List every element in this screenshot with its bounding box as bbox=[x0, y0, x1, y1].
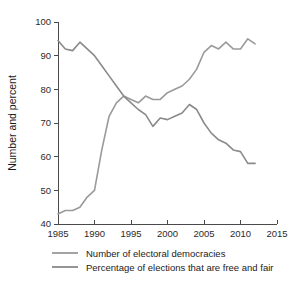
chart-series bbox=[58, 39, 255, 214]
axis-ticks bbox=[54, 22, 277, 224]
chart-figure: 405060708090100 198519901995200020052010… bbox=[0, 0, 293, 284]
x-tick-label: 2000 bbox=[157, 228, 178, 239]
x-tick-label: 1985 bbox=[47, 228, 68, 239]
x-tick-label: 1990 bbox=[84, 228, 105, 239]
series-line-democracies bbox=[58, 39, 255, 214]
y-axis-title: Number and percent bbox=[6, 75, 18, 171]
x-tick-label: 2015 bbox=[266, 228, 287, 239]
y-tick-label: 80 bbox=[40, 84, 51, 95]
y-axis-title-text: Number and percent bbox=[6, 75, 18, 171]
y-tick-label: 100 bbox=[35, 16, 51, 27]
y-tick-label: 60 bbox=[40, 151, 51, 162]
y-tick-label: 70 bbox=[40, 117, 51, 128]
legend-label-1: Percentage of elections that are free an… bbox=[86, 262, 273, 273]
line-chart: 405060708090100 198519901995200020052010… bbox=[0, 0, 293, 284]
legend-label-0: Number of electoral democracies bbox=[86, 248, 226, 259]
x-tick-label: 2005 bbox=[193, 228, 214, 239]
y-tick-label: 50 bbox=[40, 185, 51, 196]
y-axis-tick-labels: 405060708090100 bbox=[35, 16, 51, 229]
x-axis-tick-labels: 1985199019952000200520102015 bbox=[47, 228, 287, 239]
chart-legend: Number of electoral democraciesPercentag… bbox=[52, 248, 273, 273]
y-tick-label: 90 bbox=[40, 50, 51, 61]
x-tick-label: 2010 bbox=[230, 228, 251, 239]
x-tick-label: 1995 bbox=[120, 228, 141, 239]
series-line-free-and-fair bbox=[58, 41, 255, 164]
